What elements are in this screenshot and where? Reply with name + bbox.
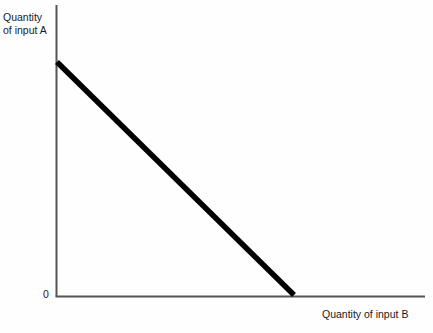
y-axis-label-line1: Quantity [3,11,42,23]
y-axis-label-line2: of input A [3,24,47,36]
y-axis-label: Quantityof input A [3,11,47,36]
plot-area [0,0,433,333]
chart-figure: Quantityof input A Quantity of input B 0 [0,0,433,333]
x-axis-label: Quantity of input B [322,308,408,321]
origin-label: 0 [43,288,49,300]
isocost-line [57,62,294,295]
